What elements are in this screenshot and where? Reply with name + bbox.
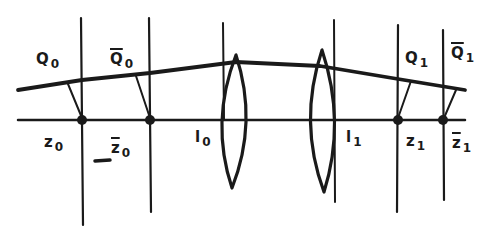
label-z1-base: z xyxy=(406,132,415,150)
label-z0bar-sub: 0 xyxy=(122,146,130,160)
label-z1: z1 xyxy=(406,134,425,152)
plane-z1bar xyxy=(443,30,444,200)
label-z1-sub: 1 xyxy=(417,139,425,153)
label-Q0bar: Q0 xyxy=(110,52,133,70)
label-Q0-base: Q xyxy=(36,50,49,68)
label-z0: z0 xyxy=(44,135,63,153)
label-z0-sub: 0 xyxy=(55,140,63,154)
point-z0 xyxy=(77,115,87,125)
label-l0: l0 xyxy=(195,130,211,148)
label-Q1-sub: 1 xyxy=(420,56,428,70)
label-Q0bar-sub: 0 xyxy=(125,57,133,71)
point-z1bar xyxy=(438,115,448,125)
label-Q0bar-base: Q xyxy=(110,50,123,68)
label-l1: l1 xyxy=(346,130,362,148)
label-Q1bar-base: Q xyxy=(451,44,464,62)
dash-mark xyxy=(95,160,110,161)
label-Q1bar: Q1 xyxy=(451,46,474,64)
lens-l0 xyxy=(222,55,246,188)
connector-z1 xyxy=(398,81,411,118)
label-Q1bar-sub: 1 xyxy=(466,51,474,65)
label-z1bar-base: z xyxy=(452,134,461,152)
connector-z1bar xyxy=(444,90,456,118)
label-l1-sub: 1 xyxy=(353,135,361,149)
label-Q0: Q0 xyxy=(36,52,59,70)
label-z1bar-sub: 1 xyxy=(463,141,471,155)
point-z1 xyxy=(393,115,403,125)
label-z1bar: z1 xyxy=(452,136,471,154)
label-z0-base: z xyxy=(44,133,53,151)
label-z0bar-base: z xyxy=(111,139,120,157)
label-l0-sub: 0 xyxy=(202,135,210,149)
label-Q1: Q1 xyxy=(405,51,428,69)
label-Q0-sub: 0 xyxy=(51,57,59,71)
label-z0bar: z0 xyxy=(111,141,130,159)
point-z0bar xyxy=(145,115,155,125)
optical-diagram xyxy=(0,0,490,228)
label-Q1-base: Q xyxy=(405,49,418,67)
label-l0-base: l xyxy=(195,128,200,146)
connector-z0bar xyxy=(136,76,150,118)
connector-z0 xyxy=(68,84,82,118)
label-l1-base: l xyxy=(346,128,351,146)
